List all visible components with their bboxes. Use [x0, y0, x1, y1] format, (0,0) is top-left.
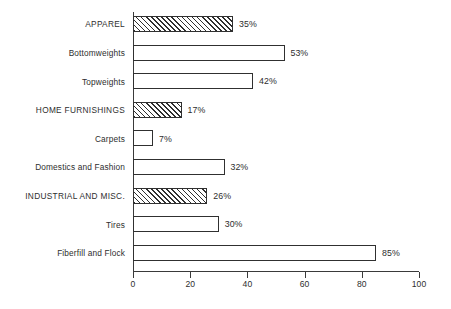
category-label: Fiberfill and Flock [57, 249, 125, 257]
category-label: Carpets [95, 135, 125, 143]
bar [133, 130, 153, 146]
bar [133, 16, 233, 32]
bar [133, 245, 376, 261]
bar-value-label: 30% [225, 220, 243, 229]
bar [133, 45, 285, 61]
x-tick-label-60: 60 [300, 280, 310, 289]
x-tick-0 [133, 272, 134, 278]
category-label: Bottomweights [69, 49, 125, 57]
x-tick-60 [305, 272, 306, 278]
bar-value-label: 7% [159, 135, 172, 144]
x-tick-80 [362, 272, 363, 278]
bar [133, 73, 253, 89]
bar-value-label: 17% [188, 106, 206, 115]
x-axis-line [133, 271, 419, 272]
x-tick-label-40: 40 [243, 280, 253, 289]
category-label: Topweights [82, 78, 125, 86]
x-tick-label-20: 20 [185, 280, 195, 289]
plot-area: 020406080100 35%53%42%17%7%32%26%30%85% [133, 0, 451, 309]
bar [133, 159, 225, 175]
category-label: INDUSTRIAL AND MISC. [25, 192, 125, 200]
category-label: APPAREL [85, 20, 125, 28]
bar-value-label: 35% [239, 20, 257, 29]
x-tick-20 [190, 272, 191, 278]
x-tick-label-0: 0 [131, 280, 136, 289]
category-label: Tires [106, 221, 125, 229]
x-tick-label-80: 80 [357, 280, 367, 289]
bar [133, 188, 207, 204]
bar [133, 216, 219, 232]
bar-value-label: 32% [231, 163, 249, 172]
category-label-column: APPARELBottomweightsTopweightsHOME FURNI… [0, 0, 129, 309]
bar-value-label: 26% [213, 192, 231, 201]
bar-value-label: 42% [259, 77, 277, 86]
x-tick-label-100: 100 [412, 280, 426, 289]
bar [133, 102, 182, 118]
category-label: Domestics and Fashion [35, 163, 125, 171]
bar-value-label: 53% [291, 49, 309, 58]
bar-value-label: 85% [382, 249, 400, 258]
x-tick-100 [419, 272, 420, 278]
category-label: HOME FURNISHINGS [36, 106, 125, 114]
bar-chart: APPARELBottomweightsTopweightsHOME FURNI… [0, 0, 451, 309]
x-tick-40 [247, 272, 248, 278]
